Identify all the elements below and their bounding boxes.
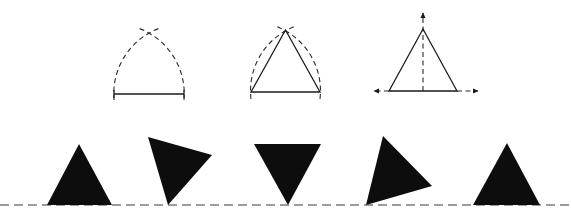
compass-arc-right <box>138 28 184 100</box>
construction-step-2 <box>251 26 321 99</box>
solid-triangle-rotated <box>148 137 212 205</box>
solid-triangle-inverted <box>254 144 321 205</box>
construction-step-1 <box>114 28 185 100</box>
solid-triangle-rotated <box>366 136 432 205</box>
solid-triangle-upright <box>47 144 112 205</box>
solid-triangle-upright <box>473 143 540 205</box>
compass-arc-left <box>114 28 160 100</box>
rolling-triangles <box>47 136 540 205</box>
diagram-canvas <box>0 0 571 215</box>
equilateral-triangle-outline <box>251 30 320 92</box>
construction-step-3 <box>374 13 478 91</box>
